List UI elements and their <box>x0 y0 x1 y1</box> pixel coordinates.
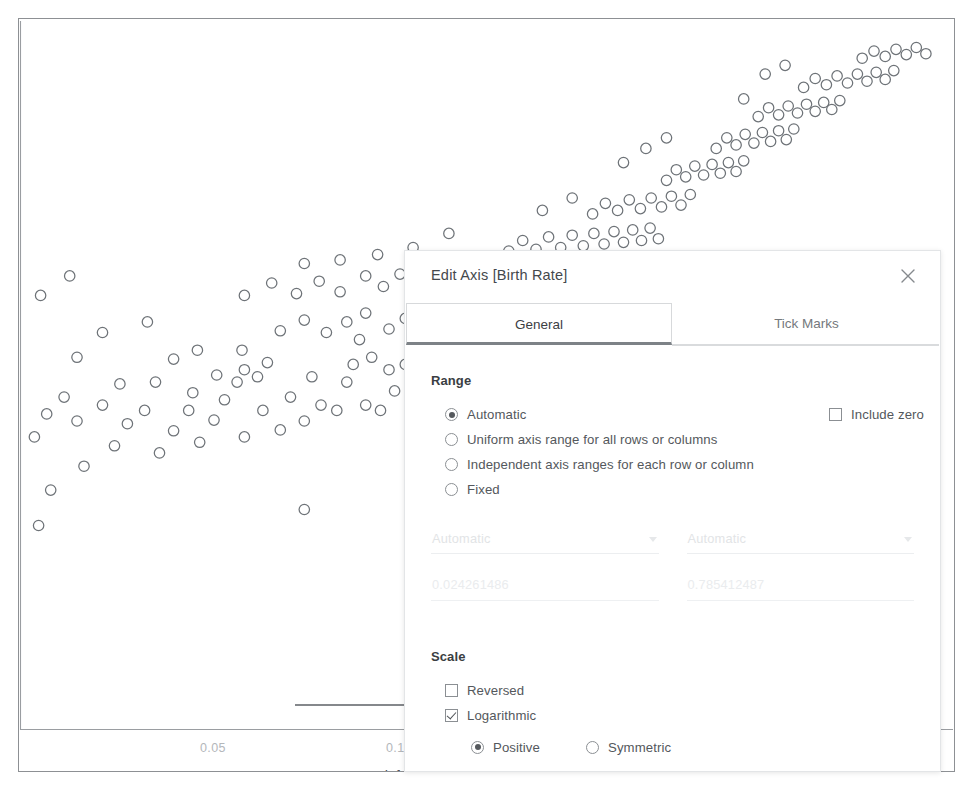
scatter-point[interactable] <box>192 345 202 355</box>
scatter-point[interactable] <box>636 235 646 245</box>
scatter-point[interactable] <box>635 203 645 213</box>
scatter-point[interactable] <box>59 392 69 402</box>
scatter-point[interactable] <box>773 126 783 136</box>
scatter-point[interactable] <box>821 80 831 90</box>
scatter-point[interactable] <box>115 379 125 389</box>
scatter-point[interactable] <box>589 228 599 238</box>
scatter-point[interactable] <box>267 278 277 288</box>
scatter-point[interactable] <box>646 193 656 203</box>
scatter-point[interactable] <box>681 172 691 182</box>
scatter-point[interactable] <box>690 161 700 171</box>
scatter-point[interactable] <box>676 200 686 210</box>
scatter-point[interactable] <box>857 53 867 63</box>
scatter-point[interactable] <box>299 416 309 426</box>
scatter-point[interactable] <box>612 205 622 215</box>
scatter-point[interactable] <box>869 46 879 56</box>
scatter-point[interactable] <box>46 485 56 495</box>
scatter-point[interactable] <box>184 405 194 415</box>
scatter-point[interactable] <box>835 95 845 105</box>
scatter-point[interactable] <box>698 170 708 180</box>
scatter-point[interactable] <box>285 392 295 402</box>
scatter-point[interactable] <box>109 441 119 451</box>
scatter-point[interactable] <box>618 157 628 167</box>
scatter-point[interactable] <box>749 138 759 148</box>
scatter-point[interactable] <box>150 377 160 387</box>
scatter-point[interactable] <box>723 157 733 167</box>
scatter-point[interactable] <box>827 104 837 114</box>
scatter-point[interactable] <box>29 432 39 442</box>
scatter-point[interactable] <box>763 103 773 113</box>
scatter-point[interactable] <box>765 136 775 146</box>
scatter-point[interactable] <box>375 405 385 415</box>
scatter-point[interactable] <box>335 255 345 265</box>
scatter-point[interactable] <box>154 448 164 458</box>
scatter-point[interactable] <box>731 166 741 176</box>
scatter-point[interactable] <box>237 345 247 355</box>
scatter-point[interactable] <box>299 258 309 268</box>
scatter-point[interactable] <box>901 49 911 59</box>
scatter-point[interactable] <box>739 94 749 104</box>
scatter-point[interactable] <box>275 425 285 435</box>
scatter-point[interactable] <box>641 143 651 153</box>
scatter-point[interactable] <box>711 143 721 153</box>
scatter-point[interactable] <box>212 370 222 380</box>
dialog-tabs[interactable]: General Tick Marks <box>406 303 939 347</box>
scatter-point[interactable] <box>810 106 820 116</box>
scatter-point[interactable] <box>384 365 394 375</box>
scatter-point[interactable] <box>342 317 352 327</box>
scatter-point[interactable] <box>72 416 82 426</box>
scatter-point[interactable] <box>753 111 763 121</box>
scatter-point[interactable] <box>122 419 132 429</box>
tab-general[interactable]: General <box>406 303 672 345</box>
scatter-point[interactable] <box>653 234 663 244</box>
scatter-point[interactable] <box>444 228 454 238</box>
scatter-point[interactable] <box>33 520 43 530</box>
scatter-point[interactable] <box>567 230 577 240</box>
radio-log-positive[interactable]: Positive <box>471 735 540 760</box>
scatter-point[interactable] <box>789 124 799 134</box>
checkbox-include-zero[interactable]: Include zero <box>829 402 924 427</box>
scatter-point[interactable] <box>773 110 783 120</box>
scatter-point[interactable] <box>880 51 890 61</box>
scatter-point[interactable] <box>810 73 820 83</box>
scatter-point[interactable] <box>599 239 609 249</box>
scatter-point[interactable] <box>685 189 695 199</box>
scatter-point[interactable] <box>798 82 808 92</box>
scatter-point[interactable] <box>97 327 107 337</box>
scatter-point[interactable] <box>321 327 331 337</box>
scatter-point[interactable] <box>739 156 749 166</box>
scatter-point[interactable] <box>518 235 528 245</box>
scatter-point[interactable] <box>361 271 371 281</box>
scatter-point[interactable] <box>97 400 107 410</box>
scatter-point[interactable] <box>661 175 671 185</box>
scatter-point[interactable] <box>707 159 717 169</box>
scatter-point[interactable] <box>780 60 790 70</box>
scatter-point[interactable] <box>661 133 671 143</box>
scatter-point[interactable] <box>852 69 862 79</box>
checkbox-logarithmic[interactable]: Logarithmic <box>445 703 914 728</box>
scatter-point[interactable] <box>891 44 901 54</box>
radio-range-uniform[interactable]: Uniform axis range for all rows or colum… <box>445 427 914 452</box>
scatter-point[interactable] <box>275 326 285 336</box>
scatter-point[interactable] <box>889 65 899 75</box>
scatter-point[interactable] <box>335 287 345 297</box>
scatter-point[interactable] <box>252 372 262 382</box>
scatter-point[interactable] <box>367 352 377 362</box>
scatter-point[interactable] <box>760 69 770 79</box>
scatter-point[interactable] <box>332 405 342 415</box>
scatter-point[interactable] <box>42 409 52 419</box>
scatter-point[interactable] <box>142 317 152 327</box>
scatter-point[interactable] <box>389 386 399 396</box>
scatter-point[interactable] <box>209 415 219 425</box>
scatter-point[interactable] <box>79 461 89 471</box>
scatter-point[interactable] <box>258 405 268 415</box>
scatter-point[interactable] <box>168 426 178 436</box>
radio-log-symmetric[interactable]: Symmetric <box>586 735 671 760</box>
scatter-point[interactable] <box>757 127 767 137</box>
close-icon[interactable] <box>896 264 920 288</box>
scatter-point[interactable] <box>666 191 676 201</box>
scatter-point[interactable] <box>239 432 249 442</box>
scatter-point[interactable] <box>842 78 852 88</box>
scatter-point[interactable] <box>342 377 352 387</box>
scatter-point[interactable] <box>862 76 872 86</box>
